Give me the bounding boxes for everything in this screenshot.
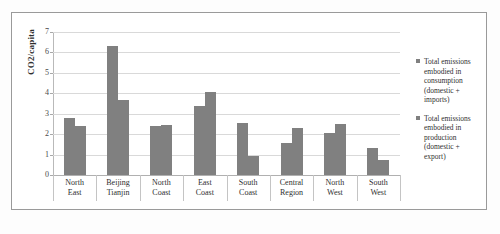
bar [248, 156, 259, 175]
bar-group [324, 32, 346, 175]
x-category-label: SouthCoast [225, 178, 271, 198]
legend-entry[interactable]: Total emissionsembodied inproduction(dom… [416, 114, 494, 162]
x-category-label: NorthWest [312, 178, 358, 198]
x-category-label-line: South [355, 178, 401, 188]
legend-label-line: production [424, 133, 494, 143]
legend-label-line: embodied in [424, 67, 494, 77]
x-category-label: BeijingTianjin [95, 178, 141, 198]
y-axis-title: CO2/capita [26, 29, 36, 75]
bar [324, 133, 335, 175]
legend-swatch [416, 116, 420, 120]
y-tick-label-3: 3 [45, 110, 49, 118]
bar [335, 124, 346, 175]
legend-entry[interactable]: Total emissionsembodied inconsumption(do… [416, 57, 494, 105]
x-category-label-line: Central [269, 178, 315, 188]
x-category-label-line: Tianjin [95, 188, 141, 198]
x-category-label: EastCoast [182, 178, 228, 198]
x-category-label-line: West [312, 188, 358, 198]
y-tick-label-2: 2 [45, 130, 49, 138]
bar [150, 126, 161, 175]
x-category-label-line: North [312, 178, 358, 188]
y-tick-label-6: 6 [45, 48, 49, 56]
y-tick-label-7: 7 [45, 28, 49, 36]
legend-label-line: (domestic + [424, 86, 494, 96]
legend-label-line: embodied in [424, 123, 494, 133]
bar [378, 160, 389, 175]
legend-label-line: Total emissions [424, 114, 494, 124]
bar-series-layer [53, 32, 400, 175]
bar [205, 92, 216, 175]
bar [292, 128, 303, 175]
bar-group [150, 32, 172, 175]
bar [161, 125, 172, 175]
x-category-label-line: North [52, 178, 98, 188]
y-tick-label-5: 5 [45, 69, 49, 77]
y-tick-label-4: 4 [45, 89, 49, 97]
y-tick-label-0: 0 [45, 171, 49, 179]
legend-label-line: imports) [424, 95, 494, 105]
x-category-label: NorthCoast [138, 178, 184, 198]
legend-label-line: (domestic + [424, 142, 494, 152]
x-category-label-line: West [355, 188, 401, 198]
bar [237, 123, 248, 175]
bar [107, 46, 118, 175]
y-tick-label-1: 1 [45, 151, 49, 159]
x-category-label-line: Beijing [95, 178, 141, 188]
bar [367, 148, 378, 175]
x-category-label-line: North [138, 178, 184, 188]
x-category-label-line: South [225, 178, 271, 188]
legend-label-line: Total emissions [424, 57, 494, 67]
x-category-label-line: East [182, 178, 228, 188]
bar [194, 106, 205, 175]
bar-group [237, 32, 259, 175]
x-category-label-line: Region [269, 188, 315, 198]
bar [64, 118, 75, 175]
x-category-label-line: East [52, 188, 98, 198]
x-category-label: SouthWest [355, 178, 401, 198]
x-category-label: NorthEast [52, 178, 98, 198]
chart-legend: Total emissionsembodied inconsumption(do… [416, 57, 494, 170]
bar [281, 143, 292, 175]
bar [75, 126, 86, 175]
bar-group [367, 32, 389, 175]
x-category-label-line: Coast [225, 188, 271, 198]
legend-swatch [416, 59, 420, 63]
bar-group [107, 32, 129, 175]
x-category-label: CentralRegion [269, 178, 315, 198]
bar-group [64, 32, 86, 175]
legend-label-line: export) [424, 152, 494, 162]
figure-container: CO2/capita 01234567 NorthEastBeijingTian… [0, 0, 500, 234]
bar-group [281, 32, 303, 175]
legend-label-line: consumption [424, 76, 494, 86]
bar-group [194, 32, 216, 175]
bar [118, 100, 129, 175]
x-category-label-line: Coast [138, 188, 184, 198]
plot-area: 01234567 NorthEastBeijingTianjinNorthCoa… [53, 32, 400, 175]
chart-frame: CO2/capita 01234567 NorthEastBeijingTian… [11, 12, 487, 210]
x-category-label-line: Coast [182, 188, 228, 198]
